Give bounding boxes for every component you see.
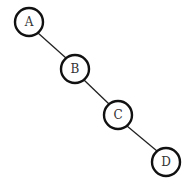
node-a: A [15, 8, 43, 36]
edge-c-d [127, 126, 157, 151]
node-b: B [61, 55, 89, 83]
node-c: C [104, 101, 132, 129]
node-b-label: B [71, 62, 80, 76]
node-a-label: A [24, 15, 34, 29]
edge-b-c [84, 80, 109, 104]
edges-layer [38, 33, 157, 151]
nodes-layer: A B C D [15, 8, 180, 176]
edge-a-b [38, 33, 66, 58]
node-d: D [152, 148, 180, 176]
node-d-label: D [161, 155, 171, 169]
tree-diagram: A B C D [0, 0, 193, 191]
node-c-label: C [113, 108, 122, 122]
